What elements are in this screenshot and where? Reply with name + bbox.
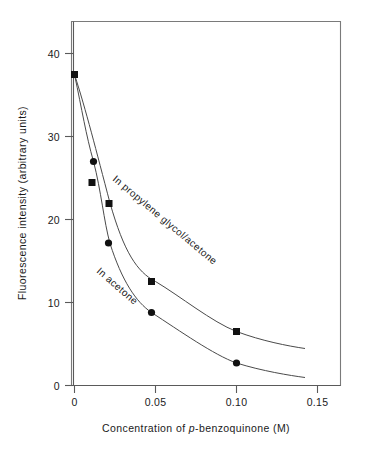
data-point-circle-1 (105, 239, 112, 246)
y-tick-label-20: 20 (48, 214, 60, 226)
data-point-square-3 (148, 278, 155, 285)
y-tick-group (65, 54, 74, 386)
series-acetone-markers (90, 158, 240, 367)
x-axis-title-after: -benzoquinone (M) (195, 422, 290, 434)
series-label-acetone-text: In acetone (95, 265, 141, 307)
y-tick-label-0: 0 (54, 380, 60, 392)
fluorescence-quenching-chart: 40 30 20 10 0 0 0.05 0.10 0.15 (0, 0, 375, 460)
x-tick-labels: 0 0.05 0.10 0.15 (71, 396, 328, 408)
curve-propylene-glycol-acetone (75, 75, 306, 349)
x-tick-label-0.05: 0.05 (145, 396, 167, 408)
x-axis-title-before: Concentration of (102, 422, 189, 434)
x-tick-label-0.10: 0.10 (226, 396, 248, 408)
x-axis-title: Concentration of p-benzoquinone (M) (102, 422, 290, 434)
curve-acetone (75, 75, 306, 378)
data-point-circle-2 (148, 309, 155, 316)
x-tick-label-0: 0 (71, 396, 77, 408)
series-label-acetone: In acetone (95, 265, 141, 307)
series-propylene-glycol-acetone-markers (71, 71, 240, 335)
data-point-square-4 (233, 328, 240, 335)
x-tick-group (75, 386, 318, 394)
series-label-propylene-glycol-acetone-text: In propylene glycol/acetone (111, 173, 220, 267)
data-point-circle-3 (233, 359, 240, 366)
data-point-circle-0 (90, 158, 97, 165)
y-axis-title: Fluorescence intensity (arbitrary units) (16, 106, 28, 300)
y-tick-labels: 40 30 20 10 0 (48, 48, 60, 392)
x-tick-label-0.15: 0.15 (307, 396, 329, 408)
x-axis-title-italic: p (188, 422, 195, 434)
series-label-propylene-glycol-acetone: In propylene glycol/acetone (111, 173, 220, 267)
figure-container: 40 30 20 10 0 0 0.05 0.10 0.15 (0, 0, 375, 460)
data-point-square-0 (71, 71, 78, 78)
data-point-square-1 (89, 179, 96, 186)
data-point-square-2 (106, 200, 113, 207)
y-axis-title-group: Fluorescence intensity (arbitrary units) (16, 106, 28, 300)
y-tick-label-30: 30 (48, 131, 60, 143)
y-tick-label-40: 40 (48, 48, 60, 60)
y-tick-label-10: 10 (48, 297, 60, 309)
